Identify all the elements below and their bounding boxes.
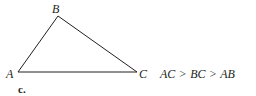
- vertex-label-b: B: [52, 3, 59, 15]
- vertex-label-a: A: [6, 68, 13, 80]
- operator-gt: >: [209, 67, 216, 81]
- term-ac: AC: [160, 67, 175, 81]
- triangle-diagram: [0, 0, 256, 96]
- vertex-label-c: C: [139, 68, 147, 80]
- term-ab: AB: [220, 67, 235, 81]
- side-length-inequality: AC>BC>AB: [160, 68, 235, 80]
- triangle-abc: [18, 16, 137, 72]
- operator-gt: >: [179, 67, 186, 81]
- term-bc: BC: [190, 67, 205, 81]
- part-label: c.: [18, 84, 26, 95]
